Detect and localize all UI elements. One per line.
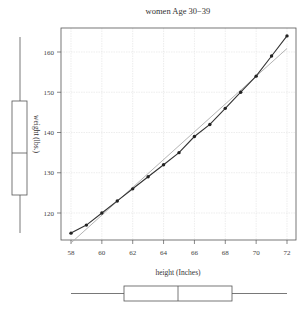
data-point	[146, 175, 149, 178]
y-tick-label: 150	[44, 89, 55, 97]
x-tick-label: 66	[191, 249, 199, 257]
x-tick-label: 58	[68, 249, 76, 257]
box	[12, 101, 27, 195]
data-point	[285, 34, 288, 37]
grid-lines	[61, 28, 296, 240]
x-tick-label: 72	[284, 249, 292, 257]
weight-boxplot	[12, 37, 27, 233]
x-tick-label: 68	[222, 249, 230, 257]
y-axis-label: weight (lbs.)	[32, 115, 41, 153]
x-axis-label: height (Inches)	[155, 268, 201, 277]
height-boxplot	[71, 286, 287, 301]
y-axis: 120130140150160	[44, 49, 62, 218]
data-point	[208, 123, 211, 126]
data-point	[100, 211, 103, 214]
data-point	[239, 91, 242, 94]
chart-title: women Age 30−39	[146, 6, 211, 16]
data-point	[69, 231, 72, 234]
y-tick-label: 130	[44, 169, 55, 177]
data-points	[69, 34, 288, 235]
plot-area: 5860626466687072 120130140150160	[44, 28, 297, 257]
data-point	[254, 74, 257, 77]
x-tick-label: 70	[253, 249, 261, 257]
data-point	[193, 135, 196, 138]
data-point	[224, 107, 227, 110]
plot-border	[61, 28, 296, 240]
data-curve	[71, 36, 287, 233]
data-point	[116, 199, 119, 202]
y-tick-label: 140	[44, 129, 55, 137]
y-tick-label: 160	[44, 49, 55, 57]
y-tick-label: 120	[44, 210, 55, 218]
x-tick-label: 62	[129, 249, 137, 257]
x-axis: 5860626466687072	[68, 240, 292, 257]
data-point	[85, 223, 88, 226]
data-point	[162, 163, 165, 166]
scatter-chart: women Age 30−39 5860626466687072 1201301…	[0, 0, 305, 312]
data-point	[131, 187, 134, 190]
data-point	[270, 54, 273, 57]
x-tick-label: 60	[98, 249, 106, 257]
x-tick-label: 64	[160, 249, 168, 257]
data-point	[177, 151, 180, 154]
